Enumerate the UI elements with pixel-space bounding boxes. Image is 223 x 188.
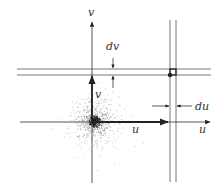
v-vector-label: v bbox=[95, 89, 101, 100]
vertical-axis-label: v bbox=[88, 7, 94, 18]
horizontal-axis-label: u bbox=[199, 124, 206, 135]
u-vector-label: u bbox=[132, 124, 139, 135]
area-element-dot bbox=[168, 73, 172, 77]
coordinate-diagram bbox=[0, 0, 223, 188]
dv-label: dv bbox=[106, 41, 119, 52]
du-label: du bbox=[195, 101, 209, 112]
